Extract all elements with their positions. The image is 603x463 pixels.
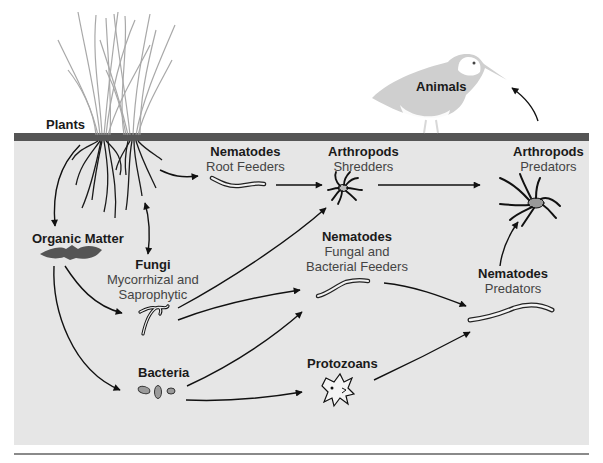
protozoan-amoeba-icon <box>322 374 354 406</box>
bacteria-icon <box>137 385 175 398</box>
label-nematodes-fungal-bacterial: Nematodes Fungal and Bacterial Feeders <box>306 229 408 274</box>
node-title: Bacteria <box>138 365 189 380</box>
label-fungi: Fungi Mycorrhizal and Saprophytic <box>107 257 199 302</box>
organic-matter-icon <box>40 245 102 260</box>
node-subtitle: Bacterial Feeders <box>306 259 408 274</box>
arthropod-predator-spider-icon <box>500 174 560 226</box>
label-organic-matter: Organic Matter <box>32 231 124 246</box>
label-protozoans: Protozoans <box>307 356 378 371</box>
label-plants: Plants <box>46 117 85 132</box>
label-arthropods-predators: Arthropods Predators <box>513 144 584 174</box>
node-title: Arthropods <box>328 144 399 159</box>
label-animals: Animals <box>416 79 467 94</box>
fungi-hypha-icon <box>140 306 168 334</box>
node-subtitle: Mycorrhizal and <box>107 272 199 287</box>
node-title: Organic Matter <box>32 231 124 246</box>
label-nematodes-root-feeders: Nematodes Root Feeders <box>206 144 285 174</box>
node-title: Arthropods <box>513 144 584 159</box>
nematode-fungal-bacterial-feeder-icon <box>318 280 368 296</box>
node-title: Fungi <box>107 257 199 272</box>
node-subtitle: Predators <box>513 159 584 174</box>
node-title: Nematodes <box>206 144 285 159</box>
node-subtitle: Root Feeders <box>206 159 285 174</box>
label-bacteria: Bacteria <box>138 365 189 380</box>
animals-title: Animals <box>416 79 467 94</box>
plants-title: Plants <box>46 117 85 132</box>
node-subtitle: Shredders <box>328 159 399 174</box>
nematode-predator-icon <box>470 305 552 320</box>
arthropod-shredder-icon <box>328 172 362 204</box>
node-title: Protozoans <box>307 356 378 371</box>
node-subtitle: Predators <box>478 281 548 296</box>
label-nematodes-predators: Nematodes Predators <box>478 266 548 296</box>
node-title: Nematodes <box>306 229 408 244</box>
node-subtitle: Saprophytic <box>107 287 199 302</box>
node-title: Nematodes <box>478 266 548 281</box>
node-subtitle: Fungal and <box>306 244 408 259</box>
roots-icon <box>72 141 162 218</box>
label-arthropods-shredders: Arthropods Shredders <box>328 144 399 174</box>
nematode-root-feeder-icon <box>212 178 264 186</box>
